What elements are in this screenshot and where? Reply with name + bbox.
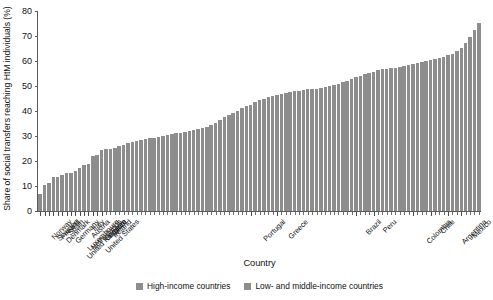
bar (446, 55, 450, 211)
bar (152, 138, 156, 212)
x-axis-tick-mark (479, 212, 480, 215)
y-axis-tick-label: 50 (22, 81, 32, 91)
x-axis-tick-mark (338, 212, 339, 215)
bar (328, 86, 332, 211)
bar (170, 134, 174, 211)
x-axis-tick-mark (343, 212, 344, 215)
x-axis-tick-mark (330, 212, 331, 215)
x-axis-tick-mark (220, 212, 221, 215)
bar (350, 79, 354, 211)
x-axis-tick-mark (233, 212, 234, 215)
x-axis-tick-label: Portugal (262, 218, 287, 243)
plot-area: 01020304050607080 (38, 11, 481, 211)
bar (174, 133, 178, 211)
bar (293, 91, 297, 211)
y-axis-tick-label: 80 (22, 6, 32, 16)
bar (389, 68, 393, 211)
x-axis-tick-mark (106, 212, 107, 215)
bar (332, 85, 336, 211)
bar (188, 131, 192, 211)
x-axis-tick-mark (352, 212, 353, 215)
x-axis-tick-label: Greece (287, 218, 310, 241)
bar (87, 164, 91, 212)
x-axis-tick-mark (163, 212, 164, 215)
y-axis-title: Share of social transfers reaching HtM i… (0, 1, 14, 216)
bar (223, 117, 227, 211)
bar (310, 89, 314, 211)
x-axis-tick-mark (439, 212, 440, 215)
bar (460, 48, 464, 212)
bar (104, 149, 108, 211)
bar (82, 165, 86, 211)
y-axis-tick-label: 30 (22, 131, 32, 141)
x-axis-tick-mark (268, 212, 269, 215)
legend-label-low-middle-income: Low- and middle-income countries (255, 281, 383, 291)
x-axis-tick-mark (172, 212, 173, 215)
x-axis-tick-mark (115, 212, 116, 215)
bar (394, 68, 398, 212)
bar (477, 23, 481, 211)
bar (214, 123, 218, 212)
x-axis-tick-mark (255, 212, 256, 215)
bar (47, 183, 51, 211)
bar (38, 194, 42, 211)
x-axis-tick-mark (167, 212, 168, 215)
bar (284, 93, 288, 211)
x-axis-tick-mark (110, 212, 111, 215)
x-axis-tick-label: Chile (438, 218, 456, 236)
x-axis-tick-mark (470, 212, 471, 215)
bar (209, 125, 213, 212)
bar (297, 91, 301, 212)
bar (183, 132, 187, 212)
x-axis-tick-mark (404, 212, 405, 215)
x-axis-tick-mark (119, 212, 120, 215)
bar (258, 100, 262, 211)
bar (78, 168, 82, 211)
x-axis-tick-mark (260, 212, 261, 215)
bar (345, 81, 349, 212)
x-axis-tick-mark (312, 212, 313, 215)
x-axis-tick-label: Mexico (471, 218, 493, 240)
bar (122, 145, 126, 211)
bar (302, 90, 306, 211)
bar (95, 155, 99, 211)
y-axis-tick-label: 20 (22, 156, 32, 166)
bar (468, 37, 472, 211)
x-axis-tick-mark (303, 212, 304, 215)
bar (275, 95, 279, 212)
bar (166, 135, 170, 211)
x-axis-title: Country (38, 258, 481, 268)
x-axis-tick-mark (189, 212, 190, 215)
bar (262, 99, 266, 211)
x-axis-tick-mark (246, 212, 247, 215)
x-axis-tick-mark (216, 212, 217, 215)
bar (271, 96, 275, 211)
bar (240, 108, 244, 211)
bar (411, 64, 415, 212)
legend-swatch-high-income (136, 283, 143, 290)
bar (148, 138, 152, 211)
x-axis-tick-mark (365, 212, 366, 215)
bar (473, 30, 477, 211)
x-axis-tick-mark (159, 212, 160, 215)
bar (161, 136, 165, 212)
bar (420, 62, 424, 212)
bar (60, 175, 64, 211)
bar-series (38, 11, 481, 211)
bar (126, 143, 130, 211)
bar (201, 128, 205, 211)
x-axis-tick-mark (378, 212, 379, 215)
bar (231, 113, 235, 211)
bar (52, 177, 56, 211)
bar (65, 173, 69, 211)
x-axis-tick-mark (132, 212, 133, 215)
bar (416, 63, 420, 212)
bar (157, 137, 161, 212)
x-axis-tick-mark (334, 212, 335, 215)
bar (451, 54, 455, 212)
bar (363, 74, 367, 211)
bar (267, 97, 271, 211)
x-axis-tick-mark (391, 212, 392, 215)
bar (424, 61, 428, 212)
x-axis-tick-mark (382, 212, 383, 215)
